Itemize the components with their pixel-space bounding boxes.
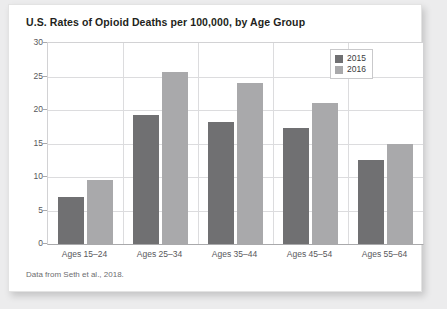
figure-root: U.S. Rates of Opioid Deaths per 100,000,…	[0, 0, 447, 309]
chart-card: U.S. Rates of Opioid Deaths per 100,000,…	[8, 4, 422, 292]
chart-legend: 20152016	[330, 49, 373, 79]
y-tick-label: 10	[13, 171, 43, 181]
x-tick-label: Ages 45–54	[287, 249, 332, 259]
x-tick-label: Ages 55–64	[362, 249, 407, 259]
legend-item-2016[interactable]: 2016	[335, 64, 366, 75]
y-tick-label: 25	[13, 71, 43, 81]
bar-2016-55-64[interactable]	[387, 144, 413, 245]
legend-swatch-icon	[335, 66, 343, 74]
y-tick-label: 20	[13, 104, 43, 114]
x-tick-label: Ages 35–44	[212, 249, 257, 259]
y-tick-label: 0	[13, 238, 43, 248]
legend-swatch-icon	[335, 55, 343, 63]
legend-label: 2015	[347, 53, 366, 64]
y-tick-label: 5	[13, 205, 43, 215]
x-tick-label: Ages 25–34	[137, 249, 182, 259]
y-axis: 051015202530	[9, 42, 43, 245]
source-note: Data from Seth et al., 2018.	[26, 270, 124, 279]
legend-label: 2016	[347, 64, 366, 75]
x-tick-label: Ages 15–24	[62, 249, 107, 259]
y-tick-label: 15	[13, 138, 43, 148]
y-tick-label: 30	[13, 37, 43, 47]
chart-title: U.S. Rates of Opioid Deaths per 100,000,…	[26, 16, 305, 28]
bar-2015-55-64[interactable]	[358, 160, 384, 244]
legend-item-2015[interactable]: 2015	[335, 53, 366, 64]
